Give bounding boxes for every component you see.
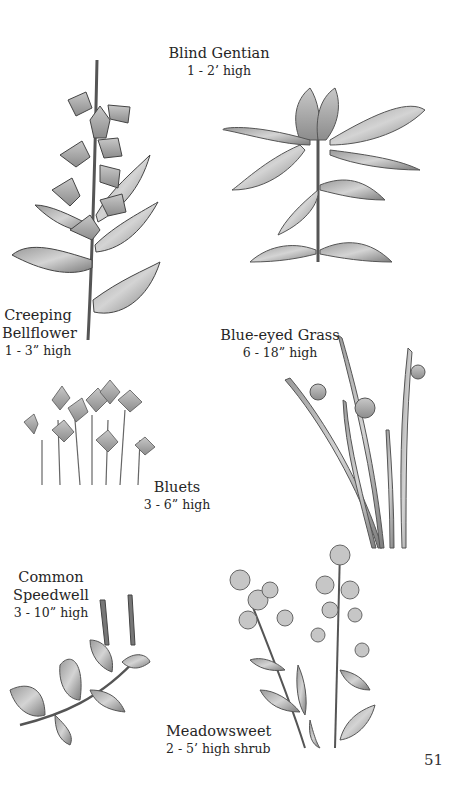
- plant-height: 3 - 6” high: [142, 496, 212, 514]
- plant-label-creeping-bellflower: Creeping Bellflower 1 - 3” high: [2, 306, 74, 360]
- plant-name-line-2: Bellflower: [2, 324, 74, 342]
- page-number: 51: [424, 751, 443, 769]
- plant-label-blue-eyed-grass: Blue-eyed Grass 6 - 18” high: [205, 326, 355, 362]
- plant-name: Bluets: [142, 478, 212, 496]
- plant-height: 3 - 10” high: [8, 604, 94, 622]
- plant-name: Blue-eyed Grass: [205, 326, 355, 344]
- bluets-illustration: [24, 380, 155, 485]
- plant-name-line-2: Speedwell: [8, 586, 94, 604]
- plant-label-bluets: Bluets 3 - 6” high: [142, 478, 212, 514]
- plant-height: 6 - 18” high: [205, 344, 355, 362]
- plant-height: 1 - 3” high: [2, 342, 74, 360]
- blue-eyed-grass-illustration: [285, 335, 425, 548]
- plant-name: Blind Gentian: [150, 44, 288, 62]
- plant-name: Meadowsweet: [166, 722, 271, 740]
- meadowsweet-illustration: [230, 545, 375, 748]
- plant-label-common-speedwell: Common Speedwell 3 - 10” high: [8, 568, 94, 622]
- plant-label-blind-gentian: Blind Gentian 1 - 2’ high: [150, 44, 288, 80]
- blind-gentian-illustration: [223, 88, 425, 262]
- creeping-bellflower-illustration: [12, 60, 160, 340]
- plant-illustrations: [0, 0, 465, 807]
- plant-label-meadowsweet: Meadowsweet 2 - 5’ high shrub: [166, 722, 271, 758]
- plant-name-line-1: Common: [8, 568, 94, 586]
- plant-height: 1 - 2’ high: [150, 62, 288, 80]
- plant-height: 2 - 5’ high shrub: [166, 740, 271, 758]
- plant-name-line-1: Creeping: [2, 306, 74, 324]
